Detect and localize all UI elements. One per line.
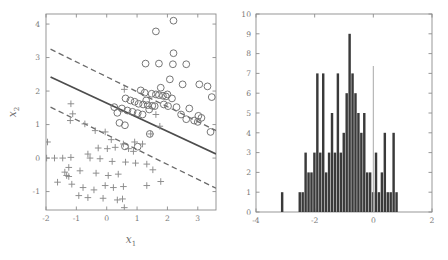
data-point-circle [207, 129, 214, 136]
histogram-bar [392, 133, 394, 212]
y-tick-label: 10 [241, 10, 251, 19]
histogram-bar [328, 153, 330, 212]
data-point-circle [183, 61, 190, 68]
data-point-circle [139, 111, 146, 118]
data-point-circle [114, 109, 121, 116]
x-tick-label: -4 [252, 216, 260, 225]
y-tick-label: 2 [35, 87, 40, 96]
x-tick-label: 0 [371, 216, 376, 225]
data-point-circle [170, 50, 177, 57]
y-axis-title: x2 [6, 107, 21, 117]
data-point-circle [169, 95, 176, 102]
y-tick-label: 5 [246, 109, 251, 118]
histogram-bar [378, 192, 380, 212]
data-point-circle [156, 60, 163, 67]
data-point-circle [186, 105, 193, 112]
data-point-circle [169, 61, 176, 68]
histogram-bar [375, 153, 377, 212]
histogram-bar [331, 113, 333, 212]
data-point-circle [141, 89, 148, 96]
histogram-bar [381, 172, 383, 212]
histogram-bar [395, 192, 397, 212]
histogram-bar [316, 73, 318, 212]
histogram-bar [310, 172, 312, 212]
data-point-circle [170, 17, 177, 24]
histogram-bar [348, 34, 350, 212]
x-tick-label: 3 [195, 214, 200, 223]
histogram-bar [369, 172, 371, 212]
scatter-data-layer [43, 17, 216, 211]
scatter-panel: -2-10123-101234x1x2 [0, 0, 224, 260]
data-point-circle [142, 60, 149, 67]
x-tick-label: -2 [311, 216, 319, 225]
scatter-plot-svg: -2-10123-101234x1x2 [0, 0, 224, 260]
data-point-circle [152, 28, 159, 35]
x-tick-label: 2 [430, 216, 435, 225]
histogram-bar [351, 73, 353, 212]
histogram-panel: -4-202012345678910 [224, 0, 448, 260]
x-tick-label: -2 [42, 214, 50, 223]
histogram-bar [357, 113, 359, 212]
y-tick-label: 9 [246, 30, 251, 39]
y-tick-label: 0 [246, 208, 251, 217]
histogram-bar [340, 153, 342, 212]
histogram-bar [281, 192, 283, 212]
y-tick-label: 8 [246, 49, 251, 58]
data-point-circle [183, 116, 190, 123]
x-tick-label: 0 [104, 214, 109, 223]
x-axis-title: x1 [126, 233, 136, 248]
y-tick-label: 4 [246, 129, 251, 138]
y-tick-label: 0 [35, 154, 40, 163]
data-point-circle [137, 87, 144, 94]
histogram-bar [313, 153, 315, 212]
histogram-bar [307, 172, 309, 212]
histogram-bar [389, 192, 391, 212]
data-point-circle [164, 91, 171, 98]
y-tick-label: 3 [35, 53, 40, 62]
data-point-circle [157, 84, 164, 91]
x-tick-label: -1 [73, 214, 80, 223]
y-tick-label: 6 [246, 89, 251, 98]
histogram-bar [325, 172, 327, 212]
histogram-bar [343, 133, 345, 212]
histogram-bar [304, 153, 306, 212]
data-point-circle [208, 94, 215, 101]
data-point-circle [196, 81, 203, 88]
x-tick-label: 1 [135, 214, 140, 223]
histogram-bar [363, 113, 365, 212]
y-tick-label: 1 [35, 120, 40, 129]
histogram-bar [322, 73, 324, 212]
histogram-bar [334, 153, 336, 212]
y-tick-label: 4 [35, 20, 40, 29]
histogram-plot-svg: -4-202012345678910 [224, 0, 448, 260]
histogram-bar [384, 133, 386, 212]
y-tick-label: -1 [33, 187, 40, 196]
figure-container: -2-10123-101234x1x2 -4-202012345678910 [0, 0, 448, 260]
data-point-circle [173, 104, 180, 111]
data-point-circle [179, 81, 186, 88]
data-point-circle [204, 83, 211, 90]
y-tick-label: 3 [246, 148, 251, 157]
histogram-bar [345, 93, 347, 212]
histogram-bar [387, 192, 389, 212]
histogram-bar [366, 172, 368, 212]
histogram-bar [337, 73, 339, 212]
data-point-circle [131, 98, 138, 105]
y-tick-label: 1 [246, 188, 251, 197]
data-point-circle [166, 76, 173, 83]
histogram-bar [319, 153, 321, 212]
y-tick-label: 2 [246, 168, 251, 177]
histogram-bar [301, 192, 303, 212]
x-tick-label: 2 [165, 214, 170, 223]
histogram-bar [354, 93, 356, 212]
histogram-bar [299, 192, 301, 212]
histogram-bar [360, 133, 362, 212]
y-tick-label: 7 [246, 69, 251, 78]
